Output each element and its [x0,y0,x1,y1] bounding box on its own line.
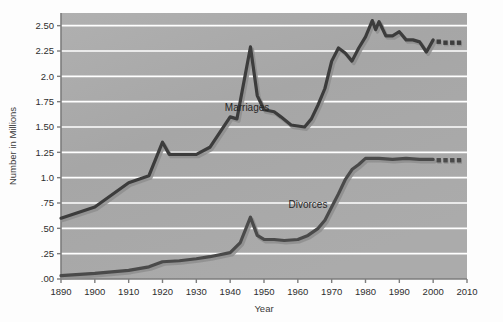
y-tick-label: 1.25 [36,147,55,158]
series-annotation-divorces: Divorces [289,199,328,210]
y-tick-label: .00 [41,273,54,284]
y-tick-label: 1.0 [41,172,54,183]
x-axis-ticks: 1890190019101920193019401950196019701980… [50,279,477,297]
y-axis-ticks: .00.25.50.751.01.251.501.752.02.252.50 [36,20,62,284]
x-tick-label: 1890 [50,286,71,297]
y-tick-label: 2.50 [36,20,55,31]
x-tick-label: 1990 [389,286,410,297]
y-axis-title: Number in Millions [7,107,18,185]
series-projection-dot-marriages [437,39,441,43]
x-tick-label: 1910 [118,286,139,297]
series-annotation-marriages: Marriages [225,102,269,113]
y-tick-label: 1.50 [36,121,55,132]
chart-figure: .00.25.50.751.01.251.501.752.02.252.5018… [0,0,503,322]
series-projection-dot-divorces [437,158,441,162]
x-tick-label: 1960 [287,286,308,297]
series-projection-dot-marriages [443,40,447,44]
x-tick-label: 1930 [186,286,207,297]
x-axis-title: Year [254,303,273,314]
source-note [4,317,500,322]
series-projection-dot-divorces [450,158,454,162]
x-tick-label: 2000 [423,286,444,297]
x-tick-label: 1950 [253,286,274,297]
series-projection-dot-marriages [450,40,454,44]
x-tick-label: 1940 [220,286,241,297]
x-tick-label: 1980 [355,286,376,297]
x-tick-label: 2010 [456,286,477,297]
line-chart: .00.25.50.751.01.251.501.752.02.252.5018… [0,0,503,322]
series-projection-dot-divorces [457,158,461,162]
y-tick-label: .75 [41,197,54,208]
y-tick-label: 1.75 [36,96,55,107]
y-tick-label: .50 [41,223,54,234]
x-tick-label: 1970 [321,286,342,297]
series-projection-dot-divorces [443,158,447,162]
y-tick-label: .25 [41,248,54,259]
y-tick-label: 2.25 [36,45,55,56]
y-tick-label: 2.0 [41,71,54,82]
x-tick-label: 1920 [152,286,173,297]
series-projection-dot-marriages [457,40,461,44]
x-tick-label: 1900 [84,286,105,297]
